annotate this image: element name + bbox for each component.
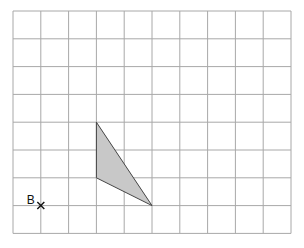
grid-diagram: B xyxy=(0,0,304,248)
grid xyxy=(13,11,291,233)
point-label: B xyxy=(27,193,35,207)
point-b: B xyxy=(27,193,45,210)
